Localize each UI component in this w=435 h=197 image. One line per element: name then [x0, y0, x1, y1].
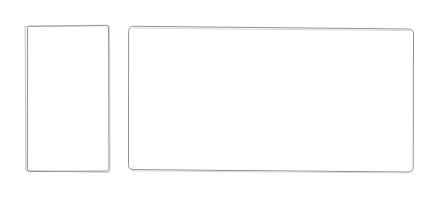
- right-landscape-frame[interactable]: [128, 26, 413, 173]
- left-portrait-frame-fill: [28, 27, 110, 173]
- frames-vector-layer: [0, 0, 435, 197]
- drawing-canvas: [0, 0, 435, 197]
- right-landscape-frame-fill: [130, 30, 414, 172]
- left-portrait-frame[interactable]: [25, 25, 110, 172]
